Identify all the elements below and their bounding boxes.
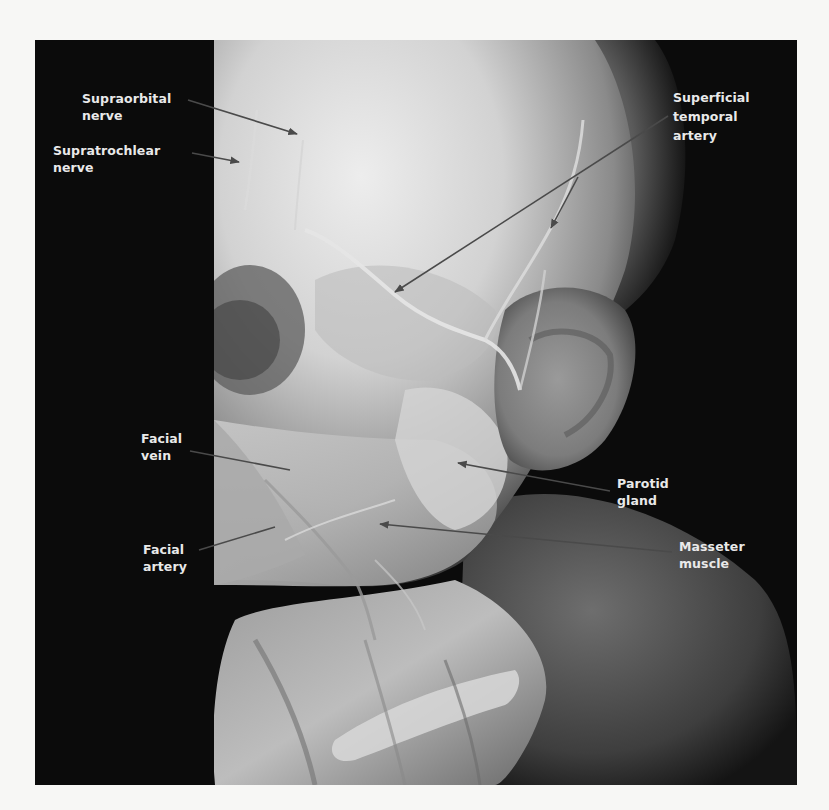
- label-line: gland: [617, 492, 669, 509]
- label-line: Facial: [143, 541, 187, 558]
- label-line: artery: [143, 558, 187, 575]
- label-parotid-gland: Parotid gland: [617, 475, 669, 509]
- label-line: nerve: [53, 159, 160, 176]
- label-supraorbital-nerve: Supraorbital nerve: [82, 90, 171, 124]
- label-facial-artery: Facial artery: [143, 541, 187, 575]
- label-supratrochlear-nerve: Supratrochlear nerve: [53, 142, 160, 176]
- label-line: Masseter: [679, 538, 745, 555]
- label-masseter-muscle: Masseter muscle: [679, 538, 745, 572]
- label-superficial-temporal-artery: Superficial temporal artery: [673, 88, 750, 145]
- label-line: muscle: [679, 555, 745, 572]
- label-line: artery: [673, 126, 750, 145]
- label-line: Facial: [141, 430, 182, 447]
- label-facial-vein: Facial vein: [141, 430, 182, 464]
- label-line: Superficial: [673, 88, 750, 107]
- label-line: nerve: [82, 107, 171, 124]
- label-line: Parotid: [617, 475, 669, 492]
- page: Supraorbital nerve Supratrochlear nerve …: [0, 0, 829, 810]
- label-line: Supratrochlear: [53, 142, 160, 159]
- label-line: temporal: [673, 107, 750, 126]
- label-line: Supraorbital: [82, 90, 171, 107]
- label-line: vein: [141, 447, 182, 464]
